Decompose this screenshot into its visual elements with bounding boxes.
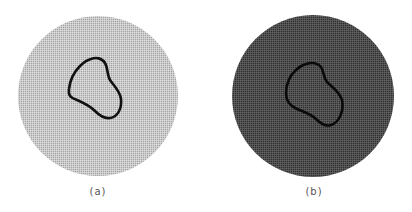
panel-b (232, 15, 394, 177)
figure-canvas (0, 0, 412, 212)
disk-b (232, 15, 394, 177)
panel-a (18, 16, 178, 176)
panel-a-label: (a) (78, 186, 118, 197)
panel-b-label: (b) (294, 186, 334, 197)
disk-a (18, 16, 178, 176)
